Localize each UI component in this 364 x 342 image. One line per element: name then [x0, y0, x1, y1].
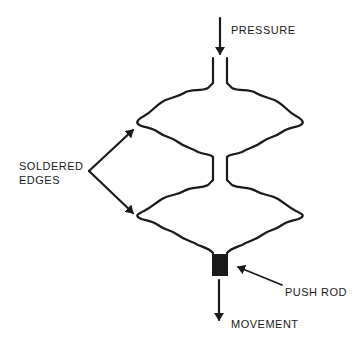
lower-capsule-bottom-right	[227, 217, 302, 253]
upper-capsule-top-left	[137, 83, 213, 124]
movement-label: MOVEMENT	[231, 318, 299, 331]
soldered-label-line2: EDGES	[19, 174, 60, 187]
pressure-label: PRESSURE	[231, 24, 296, 37]
lower-capsule-top-right	[227, 180, 303, 217]
soldered-label-line1: SOLDERED	[19, 160, 84, 173]
lower-capsule-top-left	[137, 180, 213, 217]
soldered-arrow-upper	[89, 130, 133, 171]
push-rod-label: PUSH ROD	[285, 286, 347, 299]
bellows-diagram: PRESSURE SOLDERED EDGES PUSH ROD MOVEMEN…	[0, 0, 364, 342]
lower-capsule-bottom-left	[138, 217, 213, 253]
upper-capsule-bottom-right	[227, 124, 302, 157]
push-rod-arrow	[238, 267, 282, 285]
push-rod-block	[212, 254, 228, 276]
upper-capsule-top-right	[227, 83, 303, 124]
soldered-arrow-lower	[89, 171, 133, 213]
upper-capsule-bottom-left	[138, 124, 213, 157]
